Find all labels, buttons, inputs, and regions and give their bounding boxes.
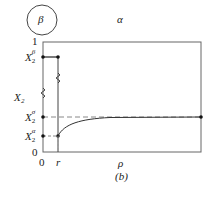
alpha-region-label: α [117,14,123,25]
y-tick-x2-beta: Xβ2 [25,52,38,63]
y-axis-label: X₂ [14,92,25,103]
beta-marker-left [41,55,45,59]
diagram-canvas [0,0,216,198]
y-tick-x2-alpha: Xα2 [25,131,38,142]
beta-marker-right [56,55,60,59]
plot-frame [43,42,201,152]
profile-curve [58,117,201,136]
sigma-marker [41,115,45,119]
y-tick-0: 0 [32,147,38,158]
end-marker [199,115,203,119]
beta-label: β [38,14,43,25]
y-tick-x2-sigma: Xσ2 [25,112,38,123]
y-tick-1: 1 [32,36,38,47]
panel-label: (b) [115,171,128,182]
x-axis-label: ρ [118,158,123,169]
x-tick-0: 0 [39,157,45,168]
x-tick-r: r [56,157,60,168]
alpha-marker-left [41,134,45,138]
